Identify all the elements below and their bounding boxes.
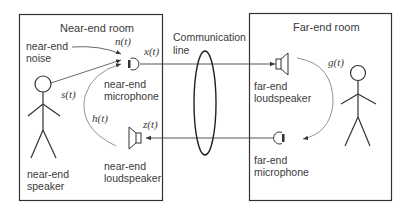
near-end-loudspeaker-label-1: near-end <box>104 160 146 172</box>
signal-g-label: g(t) <box>328 56 344 68</box>
signal-z-label: z(t) <box>143 118 158 130</box>
near-end-speaker-label-1: near-end <box>27 168 69 180</box>
far-end-loudspeaker-label-2: loudspeaker <box>254 92 311 104</box>
far-end-loudspeaker-label-1: far-end <box>254 80 287 92</box>
near-end-noise-label-2: noise <box>26 52 51 64</box>
far-end-microphone-label-1: far-end <box>254 154 287 166</box>
near-end-loudspeaker-icon <box>129 127 141 149</box>
communication-line-label-1: Communication <box>173 31 246 43</box>
signal-x-label: x(t) <box>144 45 159 57</box>
near-end-mic-label-1: near-end <box>104 78 146 90</box>
near-end-room-title: Near-end room <box>60 22 134 34</box>
far-end-speaker-figure <box>341 66 376 147</box>
near-end-noise-label-1: near-end <box>26 40 68 52</box>
near-end-speaker-label-2: speaker <box>27 180 64 192</box>
echo-arrow-near <box>84 64 121 146</box>
near-end-mic-label-2: microphone <box>104 90 159 102</box>
signal-n-label: n(t) <box>115 35 131 47</box>
near-end-speaker-figure <box>28 76 60 158</box>
communication-line-label-2: line <box>173 44 189 56</box>
signal-h-label: h(t) <box>92 112 108 124</box>
far-end-loudspeaker-icon <box>276 53 288 75</box>
near-end-microphone-icon <box>128 58 139 70</box>
noise-arrow <box>72 47 121 54</box>
signal-s-label: s(t) <box>61 88 76 100</box>
far-end-microphone-label-2: microphone <box>254 166 309 178</box>
far-end-microphone-icon <box>274 132 285 144</box>
far-end-room-title: Far-end room <box>293 21 360 33</box>
communication-line-ellipse <box>194 51 216 155</box>
near-end-loudspeaker-label-2: loudspeaker <box>104 172 161 184</box>
